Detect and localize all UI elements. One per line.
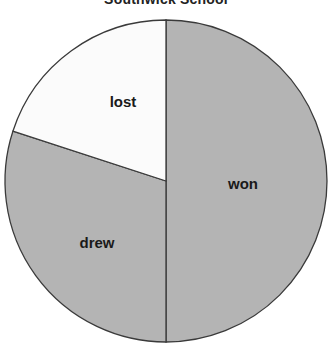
pie-chart: lost won drew bbox=[0, 0, 332, 349]
label-lost: lost bbox=[110, 93, 137, 110]
label-won: won bbox=[227, 175, 258, 192]
label-drew: drew bbox=[79, 234, 114, 251]
